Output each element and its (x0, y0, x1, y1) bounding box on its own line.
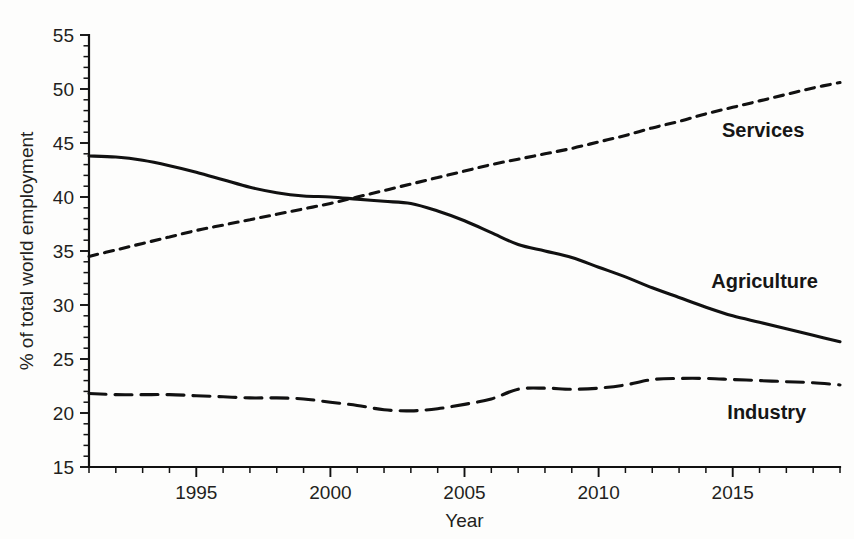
x-tick-label: 2000 (309, 482, 351, 503)
series-label-services: Services (722, 119, 804, 141)
x-tick-label: 1995 (175, 482, 217, 503)
x-axis-tick-labels: 19952000200520102015 (175, 482, 754, 503)
x-tick-label: 2010 (577, 482, 619, 503)
y-tick-label: 40 (53, 187, 74, 208)
y-tick-label: 45 (53, 133, 74, 154)
y-axis-ticks (80, 35, 89, 467)
x-axis-title: Year (445, 510, 484, 531)
x-tick-label: 2015 (712, 482, 754, 503)
y-tick-label: 30 (53, 295, 74, 316)
line-chart: 152025303540455055 19952000200520102015 … (0, 0, 854, 539)
y-tick-label: 20 (53, 403, 74, 424)
y-tick-label: 35 (53, 241, 74, 262)
series-label-agriculture: Agriculture (711, 270, 818, 292)
series-line-services (89, 83, 840, 257)
series-line-agriculture (89, 156, 840, 342)
y-tick-label: 55 (53, 25, 74, 46)
y-tick-label: 15 (53, 457, 74, 478)
y-axis-tick-labels: 152025303540455055 (53, 25, 74, 478)
series-label-industry: Industry (727, 401, 807, 423)
x-axis-ticks (89, 467, 840, 477)
y-tick-label: 50 (53, 79, 74, 100)
chart-figure: 152025303540455055 19952000200520102015 … (0, 0, 854, 539)
y-axis-title: % of total world employment (16, 131, 37, 370)
series-labels: AgricultureServicesIndustry (711, 119, 818, 424)
x-tick-label: 2005 (443, 482, 485, 503)
y-tick-label: 25 (53, 349, 74, 370)
